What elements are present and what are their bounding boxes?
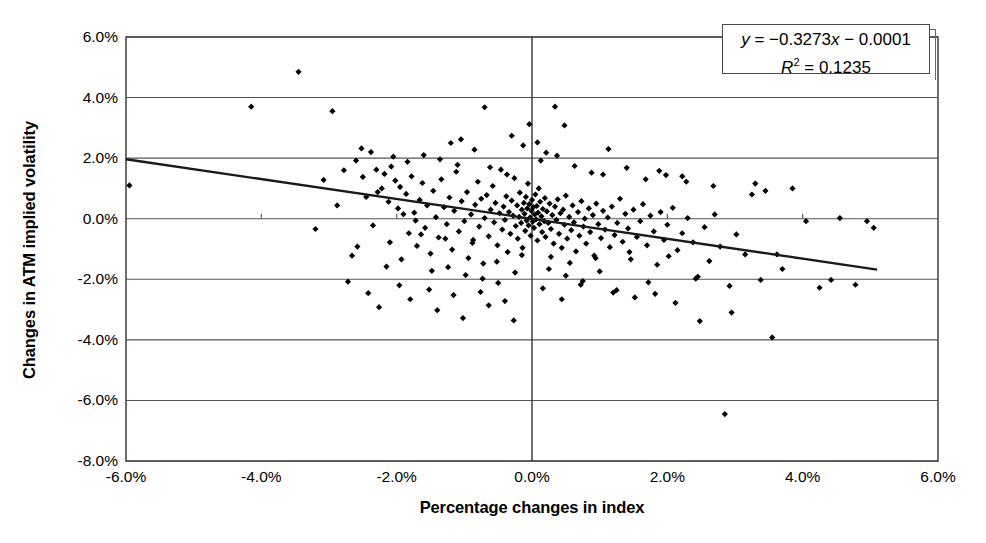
data-point-marker — [475, 179, 481, 185]
data-point-marker — [390, 154, 396, 160]
data-point-marker — [295, 69, 301, 75]
data-point-marker — [543, 150, 549, 156]
data-point-marker — [518, 220, 524, 226]
data-point-marker — [664, 222, 670, 228]
data-point-marker — [551, 240, 557, 246]
data-point-marker — [520, 142, 526, 148]
data-point-marker — [458, 136, 464, 142]
data-point-marker — [593, 200, 599, 206]
data-point-marker — [464, 189, 470, 195]
data-point-marker — [456, 228, 462, 234]
data-point-marker — [605, 146, 611, 152]
data-point-marker — [512, 270, 518, 276]
data-point-marker — [494, 259, 500, 265]
data-point-marker — [442, 236, 448, 242]
data-point-marker — [490, 183, 496, 189]
data-point-marker — [478, 196, 484, 202]
data-point-marker — [575, 209, 581, 215]
data-point-marker — [568, 227, 574, 233]
data-point-marker — [454, 162, 460, 168]
data-point-marker — [564, 236, 570, 242]
data-point-marker — [733, 231, 739, 237]
data-point-marker — [706, 258, 712, 264]
data-point-marker — [392, 177, 398, 183]
data-point-marker — [509, 197, 515, 203]
data-point-marker — [578, 198, 584, 204]
data-point-marker — [816, 285, 822, 291]
data-point-marker — [749, 191, 755, 197]
data-point-marker — [499, 227, 505, 233]
data-point-marker — [536, 221, 542, 227]
data-point-marker — [427, 250, 433, 256]
data-point-marker — [722, 411, 728, 417]
data-point-marker — [492, 200, 498, 206]
data-point-marker — [482, 215, 488, 221]
data-point-marker — [563, 273, 569, 279]
data-point-marker — [611, 232, 617, 238]
data-point-marker — [126, 182, 132, 188]
data-point-marker — [407, 296, 413, 302]
data-point-marker — [607, 244, 613, 250]
data-point-marker — [586, 205, 592, 211]
equation-intercept-part: − 0.0001 — [839, 30, 910, 49]
data-point-marker — [626, 249, 632, 255]
data-point-marker — [573, 248, 579, 254]
data-point-marker — [419, 180, 425, 186]
data-point-marker — [762, 188, 768, 194]
data-point-marker — [614, 220, 620, 226]
data-point-marker — [482, 104, 488, 110]
data-point-marker — [609, 204, 615, 210]
data-point-marker — [532, 191, 538, 197]
data-point-marker — [647, 213, 653, 219]
data-point-marker — [567, 260, 573, 266]
data-point-marker — [487, 164, 493, 170]
r-squared-text: R2 = 0.1235 — [723, 51, 929, 79]
data-point-marker — [679, 173, 685, 179]
data-point-marker — [381, 171, 387, 177]
data-point-marker — [341, 167, 347, 173]
data-point-marker — [503, 193, 509, 199]
data-point-marker — [502, 217, 508, 223]
data-point-marker — [583, 240, 589, 246]
data-point-marker — [486, 302, 492, 308]
data-point-marker — [588, 170, 594, 176]
data-point-marker — [385, 199, 391, 205]
data-point-marker — [248, 104, 254, 110]
data-point-marker — [468, 211, 474, 217]
data-point-marker — [552, 104, 558, 110]
data-point-marker — [628, 256, 634, 262]
data-point-marker — [852, 282, 858, 288]
data-point-marker — [438, 176, 444, 182]
data-point-marker — [430, 188, 436, 194]
data-point-marker — [505, 249, 511, 255]
data-point-marker — [672, 300, 678, 306]
data-point-marker — [528, 233, 534, 239]
data-point-marker — [429, 268, 435, 274]
data-point-marker — [519, 252, 525, 258]
data-point-marker — [517, 190, 523, 196]
data-point-marker — [480, 276, 486, 282]
data-point-marker — [522, 228, 528, 234]
data-point-marker — [472, 202, 478, 208]
data-point-marker — [480, 260, 486, 266]
data-point-marker — [519, 245, 525, 251]
data-point-marker — [459, 198, 465, 204]
data-point-marker — [559, 245, 565, 251]
data-point-marker — [523, 194, 529, 200]
data-point-marker — [383, 263, 389, 269]
equation-variable-y: y — [741, 30, 750, 49]
data-point-marker — [534, 139, 540, 145]
data-point-marker — [514, 202, 520, 208]
data-point-marker — [534, 237, 540, 243]
data-point-marker — [358, 145, 364, 151]
data-point-marker — [373, 167, 379, 173]
data-point-marker — [570, 202, 576, 208]
equation-box-shadow — [930, 29, 936, 80]
data-point-marker — [563, 193, 569, 199]
scatter-chart-figure: Changes in ATM implied volatility 6.0%4.… — [0, 0, 986, 543]
data-point-marker — [437, 156, 443, 162]
data-point-marker — [837, 215, 843, 221]
data-point-marker — [408, 173, 414, 179]
equation-slope-part: = −0.3273 — [750, 30, 831, 49]
data-point-marker — [365, 290, 371, 296]
